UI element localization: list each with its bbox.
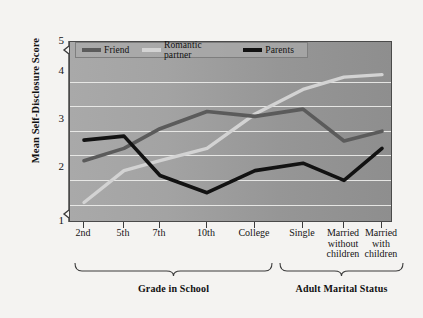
x-label-7: Married with children [355, 228, 407, 260]
group-label-grade-in-school: Grade in School [75, 283, 272, 294]
x-label-2: 7th [139, 228, 179, 239]
x-label-3-line1: 10th [184, 228, 228, 239]
legend-item-parents: Parents [243, 45, 294, 55]
x-label-1: 5th [103, 228, 143, 239]
x-label-1-line1: 5th [103, 228, 143, 239]
legend-label-romantic-partner: Romantic partner [164, 40, 230, 60]
x-label-7-line3: children [355, 249, 407, 260]
series-lines [70, 42, 392, 222]
legend-swatch-friend-icon [82, 48, 101, 52]
chart-legend: Friend Romantic partner Parents [75, 42, 308, 58]
x-label-4: College [226, 228, 282, 239]
x-label-2-line1: 7th [139, 228, 179, 239]
series-line-romantic-partner [84, 75, 382, 203]
legend-swatch-parents-icon [243, 48, 262, 52]
x-label-0-line1: 2nd [63, 228, 103, 239]
series-line-friend [84, 109, 382, 161]
bracket-adult-marital-status-icon [280, 263, 403, 276]
plot-area [69, 41, 392, 222]
chart-figure: Mean Self-Disclosure Score 5 4 3 2 1 Fri… [0, 0, 423, 318]
x-label-7-line1: Married [355, 228, 407, 239]
x-label-0: 2nd [63, 228, 103, 239]
bracket-grade-in-school-icon [75, 263, 272, 276]
y-axis-title: Mean Self-Disclosure Score [30, 13, 41, 188]
legend-label-parents: Parents [265, 45, 294, 55]
legend-label-friend: Friend [104, 45, 129, 55]
x-label-4-line1: College [226, 228, 282, 239]
group-label-adult-marital-status: Adult Marital Status [280, 283, 403, 294]
legend-item-friend: Friend [82, 45, 129, 55]
group-brackets [0, 262, 423, 284]
x-label-3: 10th [184, 228, 228, 239]
legend-item-romantic-partner: Romantic partner [142, 40, 230, 60]
legend-swatch-romantic-partner-icon [142, 48, 161, 52]
